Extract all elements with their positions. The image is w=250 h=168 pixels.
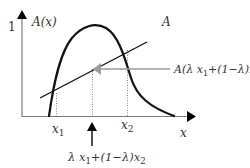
x-axis-arrowhead — [187, 111, 196, 122]
curve-label: A — [161, 15, 171, 29]
combination-label: λ x1+(1−λ)x2 — [67, 150, 146, 166]
combination-arrowhead — [87, 122, 97, 131]
y-axis-arrowhead — [17, 10, 27, 19]
value-pointer-arrowhead — [93, 63, 101, 75]
chord-line — [40, 42, 147, 98]
x-axis-label: x — [180, 126, 187, 140]
x1-label: x1 — [52, 122, 65, 138]
diagram-canvas: 1 A(x) A x x1 x2 λ x1+(1−λ)x2 A(λ x1+(1−… — [0, 0, 250, 168]
x2-label: x2 — [121, 118, 134, 134]
y-axis-label: A(x) — [31, 15, 57, 29]
function-curve — [49, 25, 174, 116]
value-label: A(λ x1+(1−λ)x2) — [173, 63, 250, 78]
y-tick-label-1: 1 — [8, 20, 16, 34]
